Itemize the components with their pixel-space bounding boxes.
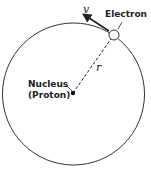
velocity-label: v xyxy=(83,3,90,16)
nucleus-label-line1: Nucleus xyxy=(28,79,68,89)
radius-line xyxy=(73,39,111,93)
electron-circle xyxy=(109,30,119,40)
radius-label: r xyxy=(96,61,102,74)
nucleus-dot xyxy=(71,91,75,95)
electron-pointer xyxy=(118,22,122,29)
nucleus-label-line2: (Proton) xyxy=(28,90,70,100)
electron-label: Electron xyxy=(105,9,147,19)
bohr-atom-diagram: v Electron r Nucleus (Proton) xyxy=(0,0,151,170)
